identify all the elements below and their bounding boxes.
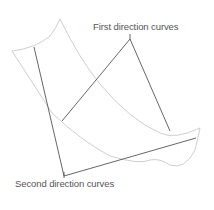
first-direction-label: First direction curves — [93, 21, 178, 32]
first-direction-curve-1 — [62, 39, 130, 121]
surface-left-edge — [12, 51, 52, 113]
direction-curves — [34, 34, 196, 178]
second-direction-curve-2 — [64, 138, 196, 176]
second-direction-curve-1 — [34, 47, 64, 176]
surface-diagram: First direction curves Second direction … — [0, 0, 214, 210]
surface-top-edge — [12, 19, 60, 51]
first-direction-curve-2 — [130, 39, 170, 131]
second-direction-label: Second direction curves — [15, 178, 114, 189]
surface-boundary — [12, 19, 200, 166]
